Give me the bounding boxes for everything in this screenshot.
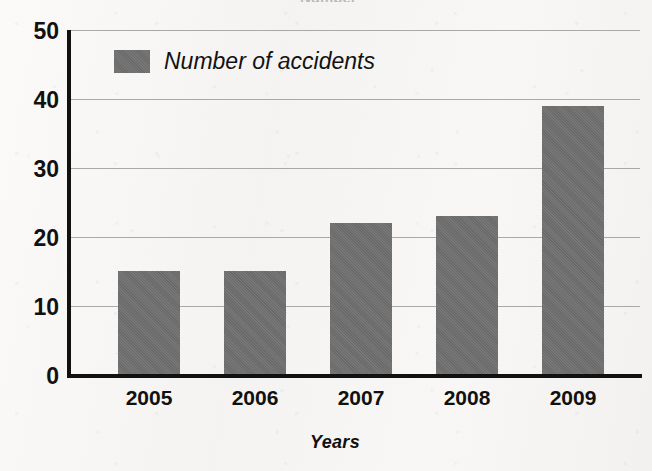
legend-swatch-number-of-accidents xyxy=(114,50,150,73)
x-axis-line xyxy=(67,374,642,378)
chart-legend: Number of accidents xyxy=(114,48,375,75)
y-tick-label-10: 10 xyxy=(3,294,59,321)
y-tick-label-0: 0 xyxy=(3,363,59,390)
plot-area: 50 40 30 20 10 0 2005 2006 2007 2008 200… xyxy=(0,0,652,471)
x-tick-label-2009: 2009 xyxy=(523,386,623,410)
gridline-50 xyxy=(71,30,640,31)
chart-page: Number of accidents 50 40 30 20 10 0 200… xyxy=(0,0,652,471)
x-axis-title: Years xyxy=(0,432,652,453)
x-tick-label-2006: 2006 xyxy=(205,386,305,410)
y-tick-label-50: 50 xyxy=(3,18,59,45)
x-tick-label-2008: 2008 xyxy=(417,386,517,410)
x-tick-label-2005: 2005 xyxy=(99,386,199,410)
bar-2007[interactable] xyxy=(330,223,392,375)
gridline-40 xyxy=(71,99,640,100)
legend-label-number-of-accidents: Number of accidents xyxy=(164,48,375,75)
bar-2006[interactable] xyxy=(224,271,286,375)
y-tick-label-30: 30 xyxy=(3,156,59,183)
y-tick-label-20: 20 xyxy=(3,225,59,252)
y-tick-label-40: 40 xyxy=(3,87,59,114)
x-tick-label-2007: 2007 xyxy=(311,386,411,410)
bar-2009[interactable] xyxy=(542,106,604,375)
bar-2005[interactable] xyxy=(118,271,180,375)
y-axis-line xyxy=(67,30,71,377)
bar-2008[interactable] xyxy=(436,216,498,375)
